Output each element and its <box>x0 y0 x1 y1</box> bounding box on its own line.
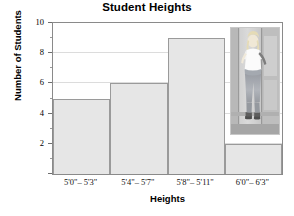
y-axis: 246810 <box>0 22 52 175</box>
x-axis: 5'0"– 5'3"5'4"– 5'7"5'8"– 5'11"6'0"– 6'3… <box>52 177 283 191</box>
x-tick-label: 5'4"– 5'7" <box>109 177 166 187</box>
bar <box>168 38 225 174</box>
chart-title: Student Heights <box>0 1 294 13</box>
x-axis-label: Heights <box>52 193 283 204</box>
bar <box>53 99 110 175</box>
y-tick-label: 4 <box>40 108 44 118</box>
x-tick-label: 6'0"– 6'3" <box>224 177 281 187</box>
chart-container: Student Heights 246810 Number of Student… <box>0 0 294 216</box>
y-tick-label: 6 <box>40 77 44 87</box>
x-tick-label: 5'8"– 5'11" <box>167 177 224 187</box>
bar <box>110 83 167 174</box>
y-tick-label: 10 <box>36 17 45 27</box>
bar <box>225 144 282 174</box>
student-photo-overlay <box>230 27 280 135</box>
y-axis-label: Number of Students <box>12 1 23 111</box>
y-tick-label: 2 <box>40 138 44 148</box>
x-tick-label: 5'0"– 5'3" <box>52 177 109 187</box>
student-photo-image <box>231 28 279 134</box>
y-tick-label: 8 <box>40 47 44 57</box>
